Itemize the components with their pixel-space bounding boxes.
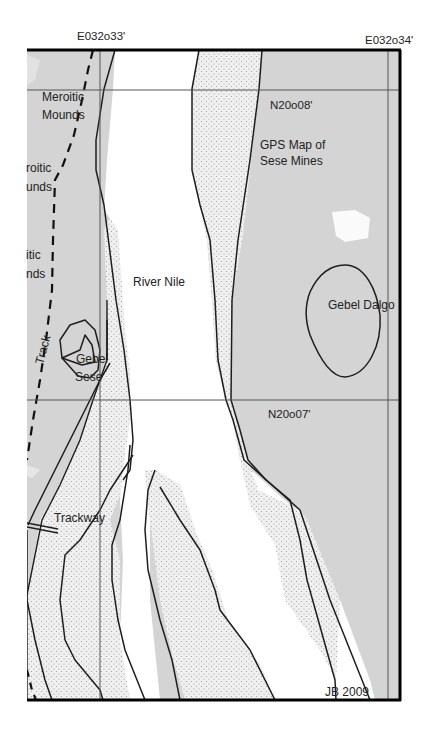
label-river-nile: River Nile (133, 275, 185, 289)
label-trackway: Trackway (54, 511, 105, 525)
label-meroitic-mounds-2b: unds (26, 180, 52, 194)
label-meroitic-mounds-3a: itic (26, 248, 41, 262)
sese-mines-map: E032o33' E032o34' N20o08' N20o07' GPS Ma… (0, 0, 448, 737)
map-credit: JB 2009 (325, 685, 369, 699)
label-meroitic-mounds-1a: Meroitic (42, 90, 84, 104)
map-title-line2: Sese Mines (260, 154, 323, 168)
longitude-east-label: E032o34' (365, 34, 413, 46)
label-gebel-sese-2: Sese (75, 370, 103, 384)
latitude-south-label: N20o07' (268, 408, 310, 420)
label-meroitic-mounds-3b: nds (26, 267, 45, 281)
label-gebel-dalgo: Gebel Dalgo (328, 298, 395, 312)
map-title-line1: GPS Map of (260, 138, 326, 152)
label-gebel-sese-1: Gebel (76, 352, 108, 366)
longitude-west-label: E032o33' (77, 30, 125, 42)
latitude-north-label: N20o08' (270, 99, 312, 111)
label-meroitic-mounds-1b: Mounds (42, 108, 85, 122)
label-meroitic-mounds-2a: roitic (26, 161, 51, 175)
